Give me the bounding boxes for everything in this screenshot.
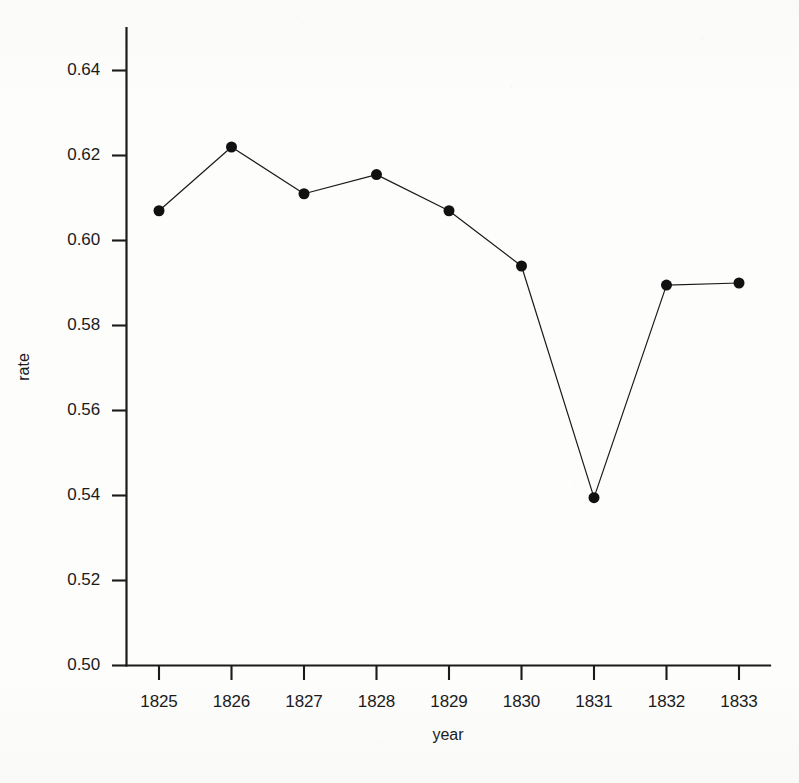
data-point-1831 [589,492,600,503]
y-tick-label-0.50: 0.50 [48,655,100,675]
x-tick-label-1825: 1825 [140,692,177,712]
data-point-1830 [516,261,527,272]
x-tick-label-1827: 1827 [285,692,322,712]
x-tick-label-1826: 1826 [213,692,250,712]
line-chart-plot [0,0,799,783]
data-point-1827 [299,188,310,199]
data-series-line [159,147,739,498]
data-point-1826 [226,142,237,153]
chart-figure: 0.50 0.52 0.54 0.56 0.58 0.60 0.62 0.64 … [0,0,799,783]
x-tick-label-1831: 1831 [575,692,612,712]
data-point-1833 [734,278,745,289]
y-tick-label-0.56: 0.56 [48,400,100,420]
y-axis-title: rate [15,353,33,381]
y-tick-label-0.54: 0.54 [48,485,100,505]
data-point-1832 [661,280,672,291]
y-tick-label-0.64: 0.64 [48,60,100,80]
data-point-1829 [444,205,455,216]
y-tick-label-0.58: 0.58 [48,315,100,335]
x-tick-label-1829: 1829 [430,692,467,712]
x-tick-label-1830: 1830 [503,692,540,712]
y-tick-label-0.52: 0.52 [48,570,100,590]
x-tick-label-1833: 1833 [720,692,757,712]
y-axis-ticks [112,71,126,666]
x-tick-label-1832: 1832 [648,692,685,712]
data-point-markers [154,142,745,504]
x-axis-title: year [432,726,463,744]
y-tick-label-0.62: 0.62 [48,145,100,165]
data-point-1828 [371,169,382,180]
y-tick-label-0.60: 0.60 [48,230,100,250]
x-tick-label-1828: 1828 [358,692,395,712]
data-point-1825 [154,205,165,216]
x-axis-ticks [159,666,739,680]
